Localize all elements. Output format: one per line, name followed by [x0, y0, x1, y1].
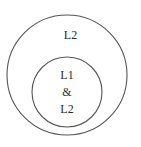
inner-set-label-secondary: L2	[32, 103, 102, 116]
inner-set-label-conjunction: &	[32, 86, 102, 99]
outer-set-label: L2	[0, 29, 141, 42]
inner-set-label-group: L1 & L2	[32, 69, 102, 116]
inner-set-label-primary: L1	[32, 69, 102, 82]
venn-diagram: L2 L1 & L2	[0, 0, 141, 147]
